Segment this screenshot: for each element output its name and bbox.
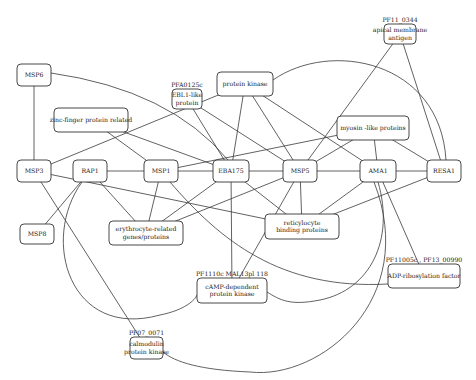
- node-eba175[interactable]: EBA175: [213, 160, 249, 182]
- node-msp3[interactable]: MSP3: [17, 160, 51, 182]
- node-label: AMA1: [367, 167, 387, 174]
- node-label: antigen: [388, 34, 412, 42]
- node-label: calmodulin: [129, 340, 164, 347]
- node-label: MSP1: [152, 167, 171, 174]
- node-label: EBL1-like: [172, 91, 203, 98]
- edge-rap1-camp: [63, 182, 197, 319]
- node-label: genes/proteins: [123, 233, 169, 241]
- node-msp8[interactable]: MSP8: [20, 224, 54, 244]
- interaction-network-diagram: MSP6MSP3MSP8RAP1MSP1EBA175MSP5AMA1RESA1z…: [0, 0, 476, 380]
- node-label: protein kinase: [210, 290, 255, 298]
- node-ebl[interactable]: EBL1-likeproteinPFA0125c: [171, 81, 203, 110]
- node-adp[interactable]: ADP-ribosylation factorPF11005c , PF13_0…: [386, 256, 463, 289]
- node-msp1[interactable]: MSP1: [144, 160, 178, 182]
- node-ama1[interactable]: AMA1: [360, 160, 396, 182]
- node-label: MSP6: [25, 71, 44, 78]
- node-label: EBA175: [218, 167, 243, 174]
- node-gene-id: PF11005c , PF13_00990: [386, 256, 463, 264]
- node-label: protein kinase: [223, 80, 268, 88]
- node-retic[interactable]: reticylocytebinding proteins: [265, 214, 339, 239]
- node-gene-id: PF11_0344: [382, 16, 417, 24]
- node-label: MSP5: [291, 167, 310, 174]
- node-msp5[interactable]: MSP5: [283, 160, 317, 182]
- node-resa1[interactable]: RESA1: [427, 160, 461, 182]
- node-zinc[interactable]: zinc-finger protein related: [50, 108, 133, 132]
- node-calmod[interactable]: calmodulinprotein kinasePF07_0071: [124, 329, 169, 360]
- node-label: binding proteins: [276, 226, 328, 234]
- node-myosin[interactable]: myosin -like proteins: [337, 116, 409, 140]
- node-msp6[interactable]: MSP6: [17, 64, 51, 86]
- node-pk[interactable]: protein kinase: [217, 72, 273, 96]
- node-gene-id: PF07_0071: [129, 329, 164, 337]
- edge-msp5-apical: [300, 34, 400, 171]
- node-camp[interactable]: cAMP-dependentprotein kinasePF1110c MAL1…: [196, 270, 268, 304]
- edge-resa1-apical: [400, 34, 444, 171]
- nodes-layer: MSP6MSP3MSP8RAP1MSP1EBA175MSP5AMA1RESA1z…: [17, 16, 462, 360]
- node-label: RESA1: [433, 167, 455, 174]
- edge-pk-resa1: [273, 61, 446, 160]
- edge-msp3-calmod: [34, 171, 147, 348]
- edge-pk-msp5: [245, 84, 300, 171]
- node-label: MSP3: [25, 167, 44, 174]
- node-label: zinc-finger protein related: [50, 116, 133, 124]
- node-erythro[interactable]: erythrocyte-relatedgenes/proteins: [109, 221, 183, 245]
- node-gene-id: PFA0125c: [171, 81, 203, 88]
- node-apical[interactable]: apical membraneantigenPF11_0344: [373, 16, 428, 45]
- node-label: ADP-ribosylation factor: [386, 272, 460, 280]
- node-rap1[interactable]: RAP1: [73, 160, 107, 182]
- node-label: myosin -like proteins: [340, 124, 406, 132]
- node-label: protein kinase: [124, 348, 169, 356]
- node-label: RAP1: [81, 167, 98, 174]
- node-gene-id: PF1110c MAL13pl 118: [196, 270, 268, 278]
- node-label: protein: [176, 99, 199, 107]
- node-label: MSP8: [28, 230, 47, 237]
- edge-pk-eba175: [231, 84, 245, 171]
